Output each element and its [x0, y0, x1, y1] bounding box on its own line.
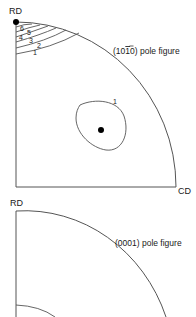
inner-contour-2	[16, 305, 55, 317]
peak-contour-1	[76, 101, 126, 150]
rd-pole-dot	[13, 19, 19, 25]
contour-label-2: 2	[37, 42, 41, 49]
pole-figures-diagram: 6 5 4 3 2 1 1 RD CD (1010) pole figure R…	[0, 0, 196, 317]
pole-figure-1010: 6 5 4 3 2 1 1 RD CD (1010) pole figure	[9, 6, 191, 196]
contour-label-4: 4	[19, 34, 23, 41]
contour-6	[16, 24, 32, 27]
pole-figure-title-0001: (0001) pole figure	[115, 238, 182, 248]
peak-contour-label: 1	[113, 98, 117, 105]
contour-label-6: 6	[20, 25, 24, 32]
contour-label-3: 3	[29, 37, 33, 44]
rd-label-2: RD	[10, 198, 23, 208]
peak-pole-dot	[98, 127, 104, 133]
rd-contours	[16, 24, 79, 54]
outer-arc-2	[16, 211, 166, 317]
cd-label-1: CD	[178, 186, 191, 196]
pole-figure-0001: RD (0001) pole figure	[10, 198, 182, 317]
contour-2	[16, 30, 66, 48]
contour-label-1: 1	[33, 49, 37, 56]
rd-label-1: RD	[9, 6, 22, 16]
contour-label-5: 5	[27, 29, 31, 36]
pole-figure-title-1010: (1010) pole figure	[113, 46, 180, 56]
contour-1	[16, 33, 79, 54]
